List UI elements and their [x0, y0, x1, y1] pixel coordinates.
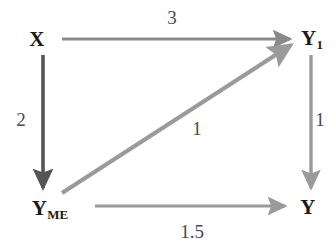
- node-x-label: X: [29, 27, 44, 51]
- node-yme-label: Y: [32, 196, 47, 220]
- edge-label-yme-to-y1: 1: [192, 119, 202, 138]
- node-y-label: Y: [300, 195, 315, 219]
- node-y1-subscript: 1: [316, 37, 323, 52]
- edge-label-y1-to-y: 1: [315, 110, 325, 129]
- edge-yme-to-y1: [62, 45, 291, 193]
- path-diagram-canvas: X Y1 YME Y 3 2 1 1 1.5: [0, 0, 336, 250]
- node-y1: Y1: [301, 28, 323, 49]
- edge-label-x-to-y1: 3: [167, 8, 177, 27]
- node-y: Y: [300, 197, 315, 218]
- node-y1-label: Y: [301, 26, 316, 50]
- node-x: X: [29, 29, 44, 50]
- edge-label-yme-to-y: 1.5: [180, 222, 204, 241]
- node-yme: YME: [32, 198, 68, 219]
- edge-label-x-to-yme: 2: [16, 110, 26, 129]
- node-yme-subscript: ME: [47, 207, 68, 222]
